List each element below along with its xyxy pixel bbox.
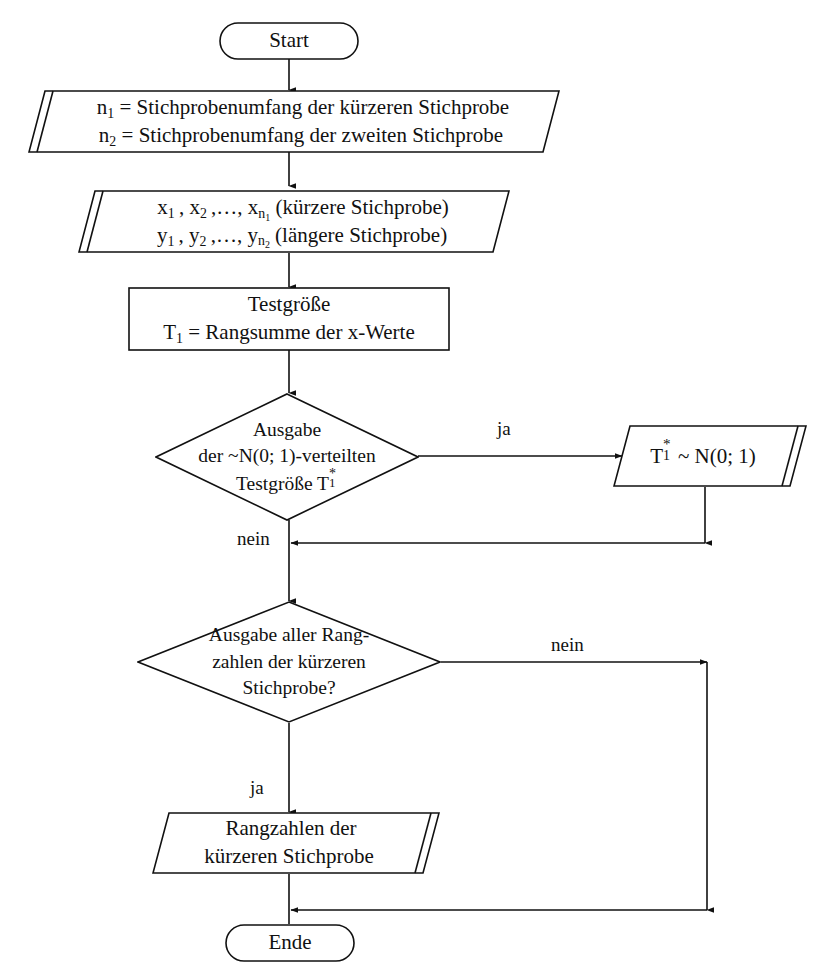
process-line1: Testgröße [248,291,331,319]
node-output-t-star[interactable]: T*1 ~ N(0; 1) [613,425,807,487]
process-line2-tail: = Rangsumme der x-Werte [183,320,415,344]
edge-label-decision2-no: nein [551,634,584,656]
edge-label-decision1-no: nein [237,528,270,550]
edge-label-decision2-yes: ja [250,777,264,799]
input-samples-line2: y1 , y2 ,…, yn2 (längere Stichprobe) [141,222,447,250]
decision1-line3-head: Testgröße T [236,473,329,494]
node-decision-output-test-statistic[interactable]: Ausgabe der ~N(0; 1)-verteilten Testgröß… [155,393,419,521]
node-start[interactable]: Start [219,22,359,60]
flowchart-canvas: Start n1 = Stichprobenumfang der kürzere… [0,0,817,970]
edge-label-decision1-yes: ja [497,418,511,440]
decision2-line3: Stichprobe? [242,675,335,702]
output-ranks-line2: kürzeren Stichprobe [204,843,388,871]
decision1-line1: Ausgabe [253,417,321,444]
process-line2: T1 = Rangsumme der x-Werte [163,319,415,347]
node-input-sample-sizes[interactable]: n1 = Stichprobenumfang der kürzeren Stic… [28,90,560,153]
decision2-line1: Ausgabe aller Rang- [209,622,369,649]
node-output-ranks[interactable]: Rangzahlen der kürzeren Stichprobe [152,812,440,874]
input-sizes-line2-rest: = Stichprobenumfang der zweiten Stichpro… [116,123,503,147]
input-sizes-line1: n1 = Stichprobenumfang der kürzeren Stic… [79,94,509,122]
input-samples-line2-tail: (längere Stichprobe) [270,223,447,247]
input-sizes-line2: n2 = Stichprobenumfang der zweiten Stich… [85,122,503,150]
node-end[interactable]: Ende [225,924,355,962]
output-t-star-tail: ~ N(0; 1) [673,444,756,468]
node-input-samples[interactable]: x1 , x2 ,…, xn1 (kürzere Stichprobe) y1 … [78,190,510,253]
output-t-star-text: T*1 ~ N(0; 1) [650,442,770,471]
input-samples-line1: x1 , x2 ,…, xn1 (kürzere Stichprobe) [139,194,448,222]
decision1-line3: Testgröße T*1 [236,470,338,497]
start-label: Start [269,27,309,55]
end-label: Ende [268,929,311,957]
node-process-teststatistic[interactable]: Testgröße T1 = Rangsumme der x-Werte [128,287,450,351]
node-decision-output-ranks[interactable]: Ausgabe aller Rang- zahlen der kürzeren … [137,601,441,723]
output-ranks-line1: Rangzahlen der [225,815,366,843]
input-samples-line1-tail: (kürzere Stichprobe) [270,195,448,219]
decision2-line2: zahlen der kürzeren [212,649,366,676]
input-sizes-line1-rest: = Stichprobenumfang der kürzeren Stichpr… [114,95,509,119]
decision1-line2: der ~N(0; 1)-verteilten [198,443,375,470]
